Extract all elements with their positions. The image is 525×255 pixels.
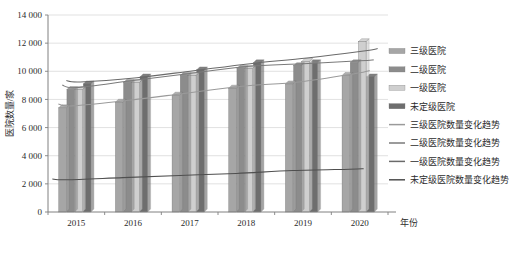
bar-side-face — [253, 65, 256, 212]
gridlines — [48, 15, 388, 184]
legend-item[interactable]: 二级医院数量变化趋势 — [389, 137, 500, 148]
hospital-count-bar-chart: 02 0004 0006 0008 00010 00012 00014 000 … — [0, 0, 525, 255]
y-axis-title: 医院数量/家 — [4, 90, 15, 138]
x-tick-label: 2016 — [124, 218, 143, 228]
bar-side-face — [245, 65, 248, 212]
y-tick-label: 2 000 — [22, 179, 43, 189]
legend-item-label: 二级医院 — [410, 64, 446, 75]
bar-side-face — [188, 73, 191, 212]
y-tick-label: 14 000 — [17, 10, 42, 20]
legend-item[interactable]: 二级医院 — [389, 64, 446, 75]
bar-side-face — [148, 74, 151, 212]
bar-group-item — [115, 99, 126, 212]
bar-side-face — [66, 105, 69, 212]
legend-item-label: 未定级医院 — [410, 101, 455, 112]
y-axis-title-text: 医院数量/家 — [4, 90, 15, 138]
legend-item[interactable]: 一级医院 — [389, 82, 446, 93]
legend-bar-swatch — [389, 67, 405, 72]
legend-item-label: 一级医院 — [410, 82, 446, 93]
legend-bar-swatch — [389, 85, 405, 90]
bar-group-item — [172, 92, 183, 212]
bar-front-face — [172, 95, 180, 212]
bar-side-face — [301, 63, 304, 212]
bar-group-item — [229, 85, 240, 212]
y-tick-label: 0 — [38, 207, 43, 217]
bar-group-item — [285, 81, 296, 212]
y-axis-ticks: 02 0004 0006 0008 00010 00012 00014 000 — [17, 10, 48, 217]
legend-item-label: 一级医院数量变化趋势 — [410, 156, 500, 167]
legend-item[interactable]: 一级医院数量变化趋势 — [389, 156, 500, 167]
x-tick-label: 2020 — [351, 218, 370, 228]
bar-side-face — [293, 81, 296, 212]
y-tick-label: 12 000 — [17, 38, 42, 48]
bar-side-face — [91, 81, 94, 212]
bar-series-layer — [59, 39, 378, 212]
bar-side-face — [261, 60, 264, 212]
trend-line — [62, 60, 373, 88]
x-axis-title: 年份 — [400, 217, 418, 228]
x-axis-ticks: 201520162017201820192020 — [48, 212, 388, 228]
bar-side-face — [366, 39, 369, 212]
bar-front-face — [342, 76, 350, 212]
y-tick-label: 6 000 — [22, 123, 43, 133]
legend-bar-swatch — [389, 48, 405, 53]
chart-legend: 三级医院二级医院一级医院未定级医院三级医院数量变化趋势二级医院数量变化趋势一级医… — [389, 45, 509, 185]
legend-item[interactable]: 未定级医院 — [389, 101, 455, 112]
y-tick-label: 8 000 — [22, 95, 43, 105]
bar-side-face — [196, 73, 199, 212]
bar-front-face — [229, 88, 237, 212]
trend-line-layer — [52, 49, 377, 180]
x-tick-label: 2015 — [67, 218, 86, 228]
bar-side-face — [309, 58, 312, 212]
chart-container: 02 0004 0006 0008 00010 00012 00014 000 … — [0, 0, 525, 255]
bar-side-face — [358, 60, 361, 212]
bar-side-face — [204, 67, 207, 212]
bar-front-face — [285, 84, 293, 212]
legend-item[interactable]: 未定级医院数量变化趋势 — [389, 174, 509, 185]
legend-item-label: 三级医院数量变化趋势 — [410, 119, 500, 130]
bar-front-face — [115, 102, 123, 212]
legend-item[interactable]: 三级医院 — [389, 45, 446, 56]
x-tick-label: 2017 — [181, 218, 200, 228]
x-tick-label: 2018 — [237, 218, 256, 228]
bar-side-face — [318, 60, 321, 212]
bar-side-face — [180, 92, 183, 212]
bar-group-item — [342, 73, 353, 212]
trend-line — [58, 71, 369, 106]
bar-group-item — [59, 105, 70, 212]
bar-side-face — [123, 99, 126, 212]
legend-bar-swatch — [389, 104, 405, 109]
bar-side-face — [236, 85, 239, 212]
bar-front-face — [59, 108, 67, 212]
bar-side-face — [350, 73, 353, 212]
legend-item-label: 二级医院数量变化趋势 — [410, 137, 500, 148]
legend-item-label: 三级医院 — [410, 45, 446, 56]
legend-item-label: 未定级医院数量变化趋势 — [410, 174, 509, 185]
bar-side-face — [374, 74, 377, 212]
x-tick-label: 2019 — [294, 218, 313, 228]
y-tick-label: 10 000 — [17, 66, 42, 76]
x-axis-title-text: 年份 — [400, 217, 418, 228]
y-tick-label: 4 000 — [22, 151, 43, 161]
legend-item[interactable]: 三级医院数量变化趋势 — [389, 119, 500, 130]
